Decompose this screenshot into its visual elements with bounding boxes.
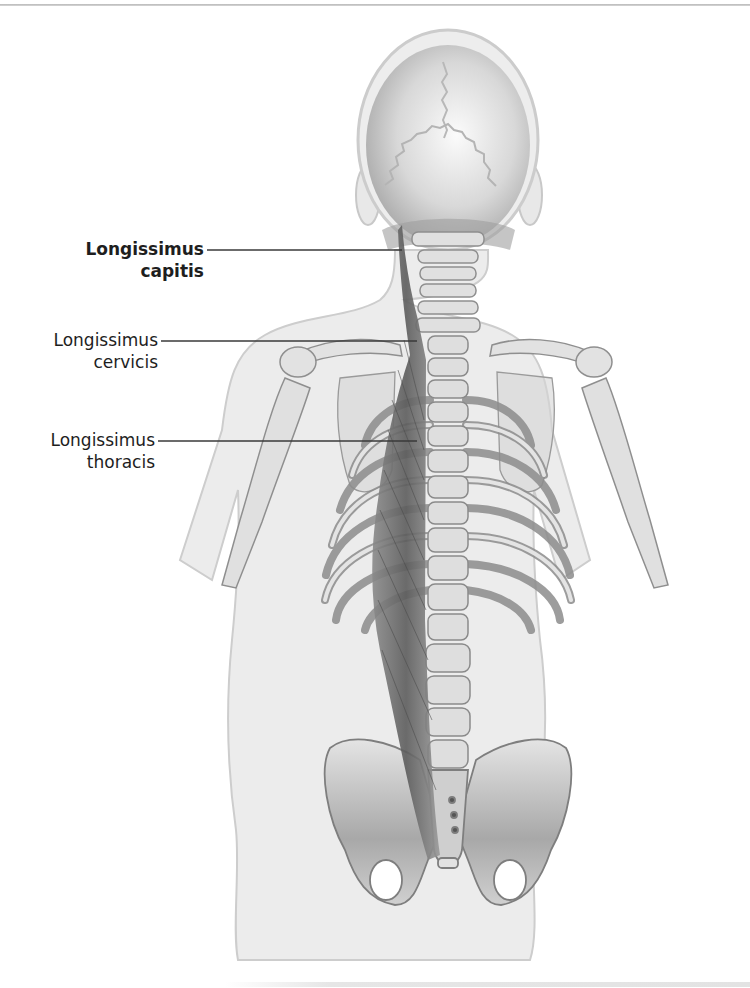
anatomy-illustration — [0, 0, 750, 988]
label-longissimus-cervicis: Longissimus cervicis — [0, 329, 158, 373]
label-longissimus-thoracis: Longissimus thoracis — [0, 429, 155, 473]
bottom-border-rule — [225, 982, 750, 987]
label-line-2: cervicis — [0, 351, 158, 373]
label-line-1: Longissimus — [4, 238, 204, 260]
label-longissimus-capitis: Longissimus capitis — [4, 238, 204, 282]
label-line-2: capitis — [4, 260, 204, 282]
label-line-2: thoracis — [0, 451, 155, 473]
label-line-1: Longissimus — [0, 429, 155, 451]
skull — [358, 30, 538, 250]
label-line-1: Longissimus — [0, 329, 158, 351]
